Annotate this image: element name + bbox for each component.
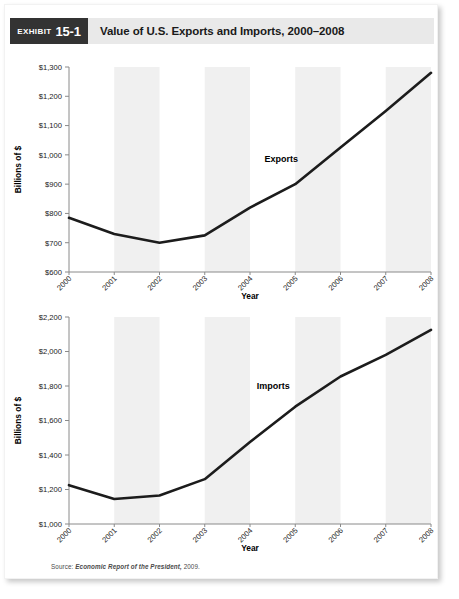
y-tick-label: $2,000 [39, 347, 62, 356]
chart-band [295, 317, 340, 524]
y-tick-label: $2,200 [39, 313, 62, 322]
x-tick-label: 2007 [372, 274, 390, 292]
exhibit-badge-number: 15-1 [56, 24, 81, 39]
chart-band [205, 317, 250, 524]
x-tick-label: 2006 [327, 274, 345, 292]
source-label: Source: [51, 563, 73, 570]
x-tick-label: 2008 [417, 274, 435, 292]
series-label-exports: Exports [264, 154, 298, 164]
x-tick-label: 2002 [146, 274, 164, 292]
x-tick-label: 2008 [417, 526, 435, 544]
x-tick-label: 2005 [281, 526, 299, 544]
source-note: Source: Economic Report of the President… [51, 563, 200, 570]
y-tick-label: $1,200 [39, 485, 62, 494]
exports-chart-svg: $600$700$800$900$1,000$1,100$1,200$1,300… [5, 50, 439, 300]
chart-band [386, 67, 431, 272]
y-tick-label: $1,200 [39, 92, 62, 101]
y-tick-label: $600 [45, 268, 62, 277]
y-tick-label: $1,300 [39, 63, 62, 72]
source-publication: Economic Report of the President, [75, 563, 182, 570]
y-tick-label: $800 [45, 209, 62, 218]
source-year: 2009. [184, 563, 200, 570]
chart-band [295, 67, 340, 272]
x-tick-label: 2001 [100, 526, 118, 544]
exhibit-header: Exhibit 15-1 Value of U.S. Exports and I… [10, 18, 434, 44]
exhibit-page: Exhibit 15-1 Value of U.S. Exports and I… [0, 0, 459, 599]
imports-chart-svg: $1,000$1,200$1,400$1,600$1,800$2,000$2,2… [5, 302, 439, 557]
exports-chart: $600$700$800$900$1,000$1,100$1,200$1,300… [5, 50, 439, 300]
x-tick-label: 2004 [236, 526, 254, 544]
x-tick-label: 2002 [146, 526, 164, 544]
x-axis-title: Year [241, 543, 259, 553]
imports-chart: $1,000$1,200$1,400$1,600$1,800$2,000$2,2… [5, 302, 439, 557]
y-axis-title: Billions of $ [13, 145, 23, 193]
y-tick-label: $1,600 [39, 416, 62, 425]
y-tick-label: $1,800 [39, 382, 62, 391]
x-tick-label: 2001 [100, 274, 118, 292]
y-tick-label: $1,100 [39, 121, 62, 130]
x-tick-label: 2005 [281, 274, 299, 292]
series-label-imports: Imports [257, 381, 290, 391]
chart-band [205, 67, 250, 272]
y-tick-label: $700 [45, 239, 62, 248]
x-tick-label: 2004 [236, 274, 254, 292]
y-axis-title: Billions of $ [13, 396, 23, 444]
y-tick-label: $1,400 [39, 451, 62, 460]
x-axis-title: Year [241, 291, 259, 300]
exhibit-title: Value of U.S. Exports and Imports, 2000–… [88, 18, 434, 44]
x-tick-label: 2007 [372, 526, 390, 544]
exhibit-badge-word: Exhibit [17, 27, 51, 36]
x-tick-label: 2003 [191, 526, 209, 544]
y-tick-label: $900 [45, 180, 62, 189]
chart-band [386, 317, 431, 524]
exhibit-number-badge: Exhibit 15-1 [10, 18, 88, 44]
chart-band [114, 317, 159, 524]
y-tick-label: $1,000 [39, 520, 62, 529]
x-tick-label: 2006 [327, 526, 345, 544]
x-tick-label: 2003 [191, 274, 209, 292]
y-tick-label: $1,000 [39, 151, 62, 160]
exhibit-card: Exhibit 15-1 Value of U.S. Exports and I… [4, 4, 438, 579]
